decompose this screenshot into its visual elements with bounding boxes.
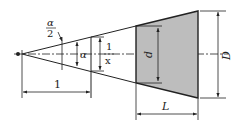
cone-lower-edge [22, 54, 136, 83]
small-diameter-label: d [142, 51, 155, 58]
taper-diagram: 1 α 2 α 1 x d D L [0, 0, 236, 132]
half-angle-leader [58, 32, 62, 41]
half-angle-denominator: 2 [47, 28, 53, 39]
length-label: L [161, 100, 169, 113]
unit-length-label: 1 [54, 78, 61, 91]
apex-point [16, 52, 20, 56]
ratio-denominator: x [105, 55, 111, 66]
angle-label: α [80, 49, 87, 60]
large-diameter-label: D [220, 51, 233, 61]
half-angle-numerator: α [47, 17, 54, 28]
ratio-numerator: 1 [106, 41, 112, 52]
cone-upper-edge [22, 26, 136, 54]
